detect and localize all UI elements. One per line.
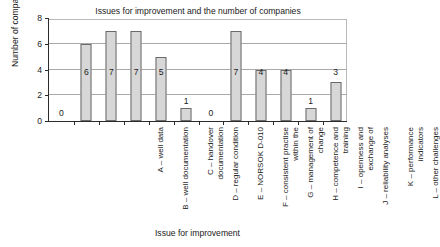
x-tick-mark — [298, 121, 299, 125]
bar-slot: 5 — [149, 19, 174, 121]
x-category-label: I – openness and exchange of — [356, 127, 375, 219]
x-category-label: D – regular condition — [231, 127, 241, 219]
y-tick-label: 2 — [37, 90, 42, 100]
bar[interactable] — [81, 44, 92, 121]
x-tick-mark — [199, 121, 200, 125]
bar-slot: 1 — [174, 19, 199, 121]
bar-value-label: 1 — [184, 97, 189, 106]
bar-value-label: 7 — [134, 68, 139, 77]
x-tick-mark — [323, 121, 324, 125]
bar-slot: 3 — [323, 19, 348, 121]
x-tick-mark — [124, 121, 125, 125]
y-axis-title: Number of companies — [10, 0, 20, 82]
x-category-label: H – competence and training — [331, 127, 350, 219]
x-category-label: J – reliability analyses — [381, 127, 391, 219]
bar-slot: 7 — [124, 19, 149, 121]
bar-value-label: 0 — [209, 109, 214, 118]
bar-value-label: 4 — [283, 68, 288, 77]
bar-value-label: 7 — [109, 68, 114, 77]
x-category-label: L – other challenges — [431, 127, 440, 219]
y-tick-mark — [45, 121, 49, 122]
bar-value-label: 1 — [308, 97, 313, 106]
bar-value-label: 0 — [59, 109, 64, 118]
bar-slot: 0 — [199, 19, 224, 121]
bar[interactable] — [330, 82, 341, 121]
x-category-label: E – NORSOK D-010 — [256, 127, 266, 219]
bar-slot: 6 — [74, 19, 99, 121]
y-tick-label: 8 — [37, 13, 42, 23]
chart-title: Issues for improvement and the number of… — [48, 6, 348, 16]
x-tick-mark — [99, 121, 100, 125]
bar-value-label: 3 — [333, 68, 338, 77]
x-tick-mark — [223, 121, 224, 125]
bar-value-label: 4 — [258, 68, 263, 77]
bar-value-label: 7 — [233, 68, 238, 77]
x-axis-title: Issue for improvement — [48, 228, 347, 238]
bar-value-label: 6 — [84, 68, 89, 77]
x-tick-mark — [149, 121, 150, 125]
bar-slot: 4 — [273, 19, 298, 121]
bar[interactable] — [181, 108, 192, 121]
bar-slot: 7 — [99, 19, 124, 121]
x-category-label: B – well documentation — [181, 127, 191, 219]
plot-area: 02468 067751074413 — [48, 19, 347, 122]
x-category-label: K – performance indicators — [406, 127, 425, 219]
x-tick-mark — [174, 121, 175, 125]
x-category-label: A – well data — [156, 127, 166, 219]
y-tick-label: 6 — [37, 39, 42, 49]
bar[interactable] — [305, 108, 316, 121]
x-tick-mark — [248, 121, 249, 125]
x-tick-mark — [74, 121, 75, 125]
y-tick-label: 4 — [37, 65, 42, 75]
y-tick-label: 0 — [37, 116, 42, 126]
bar-slot: 4 — [248, 19, 273, 121]
x-category-label: F – consistent practise within the — [281, 127, 300, 219]
x-category-label: C – handover documentation — [206, 127, 225, 219]
bar-slot: 7 — [223, 19, 248, 121]
bar-value-label: 5 — [159, 68, 164, 77]
x-category-label: G – management of change — [306, 127, 325, 219]
bar-slot: 0 — [49, 19, 74, 121]
x-tick-mark — [273, 121, 274, 125]
bar-slot: 1 — [298, 19, 323, 121]
